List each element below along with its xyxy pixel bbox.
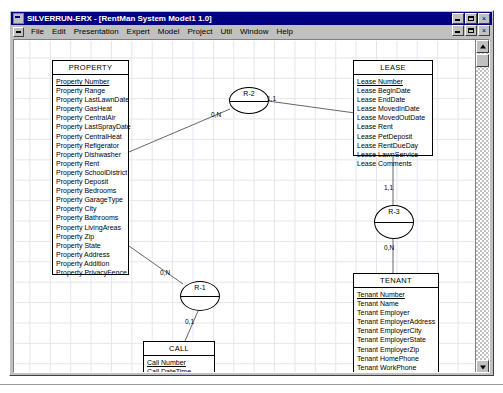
relationship-divider — [375, 222, 413, 223]
attribute: Tenant Employer — [357, 308, 438, 317]
mdi-child-system-menu-icon[interactable] — [13, 27, 24, 37]
window-controls[interactable]: × — [452, 13, 490, 24]
page-divider — [0, 384, 503, 385]
attribute: Tenant WorkPhone — [357, 363, 438, 372]
title-bar[interactable]: SILVERRUN-ERX - [RentMan System Model1 1… — [11, 12, 492, 25]
attribute: Property Bathrooms — [56, 213, 128, 222]
attribute: Lease Comments — [357, 159, 432, 168]
menu-edit[interactable]: Edit — [48, 26, 70, 37]
attribute: Tenant Name — [357, 299, 438, 308]
diagram-client-area: PROPERTY Property Number Property Range … — [13, 39, 490, 373]
attribute: Tenant EmployerCity — [357, 326, 438, 335]
scroll-down-button[interactable] — [476, 360, 489, 373]
entity-tenant-attributes: Tenant Number Tenant Name Tenant Employe… — [354, 288, 438, 373]
relationship-r1-label: R-1 — [181, 284, 219, 291]
attribute: Property Range — [56, 86, 128, 95]
attribute: Lease PetDeposit — [357, 132, 432, 141]
attribute: Lease MovedInDate — [357, 104, 432, 113]
mdi-child-window-controls[interactable]: × — [452, 25, 490, 36]
scrollbar-thumb[interactable] — [476, 54, 489, 67]
attribute: Property LastSprayDate — [56, 122, 128, 131]
relationship-r2[interactable]: R-2 — [229, 87, 269, 114]
application-window: SILVERRUN-ERX - [RentMan System Model1 1… — [9, 10, 494, 376]
maximize-button[interactable] — [465, 13, 477, 24]
attribute: Call Number — [147, 358, 214, 367]
relationship-r3[interactable]: R-3 — [374, 205, 414, 239]
relationship-divider — [181, 296, 219, 297]
vertical-scrollbar[interactable] — [475, 40, 489, 373]
attribute: Property Number — [56, 77, 128, 86]
cardinality-r1-property: 0,N — [160, 269, 170, 276]
relationship-r3-label: R-3 — [375, 208, 413, 215]
attribute: Tenant EmployerState — [357, 335, 438, 344]
screenshot-root: SILVERRUN-ERX - [RentMan System Model1 1… — [0, 0, 503, 393]
entity-call-attributes: Call Number Call DateTime Call Descripti… — [144, 356, 214, 373]
entity-property-title: PROPERTY — [53, 61, 128, 75]
relationship-divider — [230, 101, 268, 102]
attribute: Property CentralAir — [56, 113, 128, 122]
entity-tenant[interactable]: TENANT Tenant Number Tenant Name Tenant … — [353, 273, 439, 373]
attribute: Property State — [56, 241, 128, 250]
attribute: Tenant Number — [357, 290, 438, 299]
attribute: Property SchoolDistrict — [56, 168, 128, 177]
entity-tenant-title: TENANT — [354, 274, 438, 288]
attribute: Tenant EmployerZip — [357, 345, 438, 354]
attribute: Property Zip — [56, 232, 128, 241]
menu-help[interactable]: Help — [272, 26, 296, 37]
attribute: Property GarageType — [56, 195, 128, 204]
mdi-minimize-button[interactable] — [452, 25, 464, 36]
chevron-up-icon — [480, 44, 486, 48]
attribute: Property PrivacyFence — [56, 268, 128, 277]
close-icon: × — [479, 14, 489, 23]
relationship-r1[interactable]: R-1 — [180, 281, 220, 311]
attribute: Property Deposit — [56, 177, 128, 186]
er-diagram-canvas[interactable]: PROPERTY Property Number Property Range … — [15, 41, 474, 373]
entity-call-title: CALL — [144, 342, 214, 356]
mdi-close-button[interactable]: × — [478, 25, 490, 36]
entity-property[interactable]: PROPERTY Property Number Property Range … — [52, 60, 129, 275]
attribute: Tenant HomePhone — [357, 354, 438, 363]
menu-window[interactable]: Window — [236, 26, 272, 37]
menu-presentation[interactable]: Presentation — [70, 26, 123, 37]
attribute: Property Bedrooms — [56, 186, 128, 195]
attribute: Property City — [56, 204, 128, 213]
chevron-down-icon — [480, 365, 486, 369]
attribute: Property LivingAreas — [56, 223, 128, 232]
application-icon[interactable] — [13, 13, 24, 24]
menu-project[interactable]: Project — [184, 26, 217, 37]
attribute: Property GasHeat — [56, 104, 128, 113]
entity-lease-title: LEASE — [354, 61, 432, 75]
mdi-close-icon: × — [479, 26, 489, 35]
entity-lease[interactable]: LEASE Lease Number Lease BeginDate Lease… — [353, 60, 433, 156]
cardinality-r1-call: 0,1 — [185, 318, 194, 325]
attribute: Property Dishwasher — [56, 150, 128, 159]
cardinality-r2-property: 0,N — [211, 111, 221, 118]
minimize-button[interactable] — [452, 13, 464, 24]
attribute: Lease MovedOutDate — [357, 113, 432, 122]
attribute: Lease EndDate — [357, 95, 432, 104]
attribute: Call DateTime — [147, 367, 214, 373]
relationship-r2-label: R-2 — [230, 90, 268, 97]
attribute: Property LastLawnDate — [56, 95, 128, 104]
mdi-restore-button[interactable] — [465, 25, 477, 36]
attribute: Tenant ICEPhone — [357, 372, 438, 373]
menu-bar[interactable]: File Edit Presentation Expert Model Proj… — [11, 25, 492, 38]
attribute: Lease LawnService — [357, 150, 432, 159]
menu-file[interactable]: File — [27, 26, 48, 37]
attribute: Property Refigerator — [56, 141, 128, 150]
menu-model[interactable]: Model — [154, 26, 184, 37]
scroll-up-button[interactable] — [476, 40, 489, 53]
attribute: Lease RentDueDay — [357, 141, 432, 150]
entity-call[interactable]: CALL Call Number Call DateTime Call Desc… — [143, 341, 215, 373]
cardinality-r3-lease: 1,1 — [384, 184, 393, 191]
cardinality-r2-lease: 1,1 — [267, 95, 276, 102]
menu-util[interactable]: Util — [216, 26, 236, 37]
attribute: Property CentralHeat — [56, 132, 128, 141]
attribute: Property Rent — [56, 159, 128, 168]
close-button[interactable]: × — [478, 13, 490, 24]
attribute: Property Address — [56, 250, 128, 259]
menu-expert[interactable]: Expert — [123, 26, 154, 37]
attribute: Property Addition — [56, 259, 128, 268]
attribute: Lease BeginDate — [357, 86, 432, 95]
cardinality-r3-tenant: 0,N — [384, 244, 394, 251]
